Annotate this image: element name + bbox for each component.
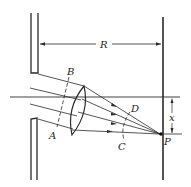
label-P: P	[163, 136, 171, 147]
label-A: A	[48, 130, 56, 141]
displacement-x: x	[163, 98, 182, 134]
incident-rays	[30, 74, 84, 129]
label-x: x	[169, 112, 175, 123]
slit-plate-lower	[31, 118, 37, 180]
distance-R: R	[40, 39, 161, 50]
slit-plate-upper	[31, 13, 38, 73]
focal-point-P: P	[159, 132, 171, 147]
diffraction-lens-diagram: R B A D C x	[0, 0, 191, 187]
label-B: B	[66, 66, 74, 77]
lens	[71, 86, 86, 135]
label-D: D	[130, 103, 139, 114]
label-R: R	[99, 39, 108, 50]
label-C: C	[118, 141, 126, 152]
